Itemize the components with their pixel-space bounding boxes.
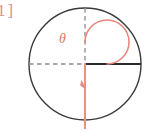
theta-arc: [85, 20, 129, 64]
figure-canvas: 1] θ: [0, 0, 150, 133]
theta-label: θ: [59, 32, 66, 46]
corner-bracket-text: 1]: [0, 2, 15, 19]
unit-circle-diagram: [0, 0, 150, 133]
